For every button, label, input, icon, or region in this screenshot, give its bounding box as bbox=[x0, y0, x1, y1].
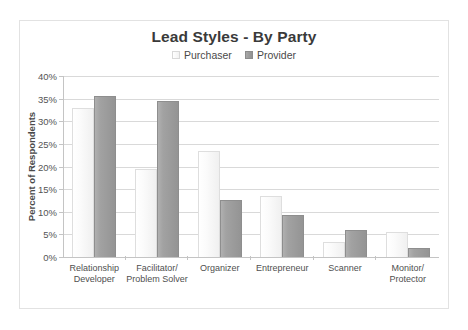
bar-group bbox=[376, 76, 439, 257]
x-axis-labels: RelationshipDeveloperFacilitator/Problem… bbox=[63, 260, 439, 298]
chart-container: Lead Styles - By Party Purchaser Provide… bbox=[19, 20, 449, 309]
x-axis-label-line: Protector bbox=[376, 274, 439, 285]
y-axis-tick-label: 25% bbox=[38, 138, 57, 149]
bar-provider[interactable] bbox=[345, 230, 367, 257]
bar-purchaser[interactable] bbox=[198, 151, 220, 257]
bar-provider[interactable] bbox=[157, 101, 179, 257]
plot-area: 40%35%30%25%20%15%10%5%0% bbox=[63, 76, 439, 257]
bar-group bbox=[63, 76, 126, 257]
y-axis-tick-label: 0% bbox=[43, 252, 57, 263]
bars-layer bbox=[63, 76, 439, 257]
x-axis-label: Facilitator/Problem Solver bbox=[126, 260, 189, 298]
x-axis-label-line: Problem Solver bbox=[126, 274, 189, 285]
x-axis-label: Scanner bbox=[314, 260, 377, 298]
y-axis-tick-label: 40% bbox=[38, 71, 57, 82]
bar-provider[interactable] bbox=[220, 200, 242, 257]
x-axis-label-line: Developer bbox=[63, 274, 126, 285]
bar-provider[interactable] bbox=[94, 96, 116, 257]
bar-group bbox=[251, 76, 314, 257]
bar-purchaser[interactable] bbox=[72, 108, 94, 257]
legend-item-provider[interactable]: Provider bbox=[245, 49, 296, 61]
x-axis-label: RelationshipDeveloper bbox=[63, 260, 126, 298]
x-axis-label-line: Relationship bbox=[63, 263, 126, 274]
bar-purchaser[interactable] bbox=[260, 196, 282, 257]
bar-provider[interactable] bbox=[282, 215, 304, 257]
bar-group bbox=[188, 76, 251, 257]
bar-purchaser[interactable] bbox=[323, 242, 345, 257]
y-axis-tick-label: 10% bbox=[38, 206, 57, 217]
legend-swatch-icon-provider bbox=[245, 51, 253, 59]
x-axis-label-line: Scanner bbox=[314, 263, 377, 274]
chart-legend: Purchaser Provider bbox=[20, 49, 448, 61]
x-axis-label: Entrepreneur bbox=[251, 260, 314, 298]
x-axis-label-line: Monitor/ bbox=[376, 263, 439, 274]
bar-purchaser[interactable] bbox=[135, 169, 157, 257]
legend-item-purchaser[interactable]: Purchaser bbox=[172, 49, 232, 61]
y-axis-tick-label: 30% bbox=[38, 116, 57, 127]
y-axis-title: Percent of Respondents bbox=[25, 76, 39, 257]
x-axis-label-line: Organizer bbox=[188, 263, 251, 274]
bar-group bbox=[126, 76, 189, 257]
legend-label-provider: Provider bbox=[257, 49, 296, 61]
bar-group bbox=[314, 76, 377, 257]
x-axis-label: Organizer bbox=[188, 260, 251, 298]
y-axis-tick-label: 5% bbox=[43, 229, 57, 240]
y-axis-tick-label: 35% bbox=[38, 93, 57, 104]
legend-swatch-icon-purchaser bbox=[172, 51, 180, 59]
x-axis-label: Monitor/Protector bbox=[376, 260, 439, 298]
x-axis-label-line: Facilitator/ bbox=[126, 263, 189, 274]
chart-title: Lead Styles - By Party bbox=[20, 28, 448, 46]
y-axis-tick-label: 15% bbox=[38, 184, 57, 195]
x-axis-label-line: Entrepreneur bbox=[251, 263, 314, 274]
legend-label-purchaser: Purchaser bbox=[184, 49, 232, 61]
y-axis-tick-label: 20% bbox=[38, 161, 57, 172]
y-axis-title-text: Percent of Respondents bbox=[27, 112, 38, 221]
bar-purchaser[interactable] bbox=[386, 232, 408, 257]
